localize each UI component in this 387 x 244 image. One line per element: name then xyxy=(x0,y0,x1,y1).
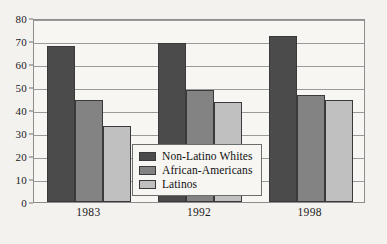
bar xyxy=(47,46,75,202)
legend-swatch-icon xyxy=(139,152,156,161)
y-tick-label: 40 xyxy=(16,106,27,117)
bar-group xyxy=(47,20,131,202)
y-tick-label: 60 xyxy=(16,60,27,71)
bar-chart: 01020304050607080 198319921998 Non-Latin… xyxy=(0,0,387,244)
legend-label: African-Americans xyxy=(162,164,252,176)
y-tick-label: 50 xyxy=(16,83,27,94)
legend-label: Non-Latino Whites xyxy=(162,150,253,162)
bar xyxy=(269,36,297,202)
x-tick-label: 1983 xyxy=(76,206,100,219)
bar-group xyxy=(269,20,353,202)
legend: Non-Latino WhitesAfrican-AmericansLatino… xyxy=(132,144,262,196)
x-tick-label: 1998 xyxy=(298,206,322,219)
legend-swatch-icon xyxy=(139,180,156,189)
bar xyxy=(75,100,103,202)
y-tick-label: 20 xyxy=(16,152,27,163)
bar xyxy=(297,95,325,202)
legend-item: Non-Latino Whites xyxy=(139,149,253,163)
y-tick-label: 30 xyxy=(16,129,27,140)
legend-label: Latinos xyxy=(162,178,197,190)
y-tick-label: 10 xyxy=(16,175,27,186)
y-tick-label: 0 xyxy=(21,198,27,209)
legend-item: African-Americans xyxy=(139,163,253,177)
y-tick-label: 80 xyxy=(16,14,27,25)
y-axis: 01020304050607080 xyxy=(0,19,33,203)
x-tick-label: 1992 xyxy=(187,206,211,219)
legend-item: Latinos xyxy=(139,177,253,191)
x-axis: 198319921998 xyxy=(33,206,365,226)
bar xyxy=(325,100,353,202)
legend-swatch-icon xyxy=(139,166,156,175)
y-tick-label: 70 xyxy=(16,37,27,48)
bar xyxy=(103,126,131,202)
